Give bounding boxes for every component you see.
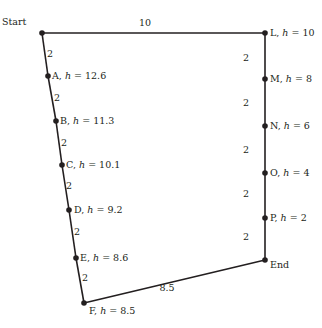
diagram-canvas: 2222228.51022222StartA, h = 12.6B, h = 1… (0, 0, 322, 328)
node-label-end: End (270, 259, 289, 270)
node-L-dot-icon (262, 30, 268, 36)
node-B-dot-icon (53, 118, 59, 124)
edge-length-label: 2 (47, 48, 53, 59)
node-P-dot-icon (262, 215, 268, 221)
node-D-dot-icon (66, 207, 72, 213)
edge-length-label: 2 (74, 226, 80, 237)
node-label-B: B, h = 11.3 (60, 115, 114, 126)
node-N-dot-icon (262, 123, 268, 129)
node-C-dot-icon (59, 162, 65, 168)
node-label-C: C, h = 10.1 (66, 159, 120, 170)
node-F-dot-icon (81, 300, 87, 306)
node-O-dot-icon (262, 170, 268, 176)
edge-length-label: 2 (66, 180, 72, 191)
node-label-F: F, h = 8.5 (89, 305, 135, 316)
edge-length-label: 2 (243, 97, 249, 108)
edge-length-label: 2 (243, 144, 249, 155)
edge-length-label: 2 (243, 188, 249, 199)
node-A-dot-icon (45, 73, 51, 79)
node-start-dot-icon (39, 30, 45, 36)
edge-length-label: 10 (139, 17, 151, 28)
edge-length-label: 2 (243, 231, 249, 242)
node-M-dot-icon (262, 76, 268, 82)
flow-path-diagram: 2222228.51022222StartA, h = 12.6B, h = 1… (0, 0, 322, 328)
node-label-E: E, h = 8.6 (80, 252, 128, 263)
node-label-D: D, h = 9.2 (74, 204, 123, 215)
edge-length-label: 8.5 (159, 282, 174, 293)
node-label-M: M, h = 8 (270, 73, 312, 84)
edge-length-label: 2 (82, 272, 88, 283)
edge-length-label: 2 (54, 92, 60, 103)
label-layer: 2222228.51022222StartA, h = 12.6B, h = 1… (2, 16, 315, 316)
node-end-dot-icon (262, 257, 268, 263)
node-label-P: P, h = 2 (270, 212, 307, 223)
node-label-start: Start (2, 16, 27, 27)
node-label-L: L, h = 10 (270, 27, 315, 38)
edge-length-label: 2 (61, 137, 67, 148)
edge-length-label: 2 (243, 52, 249, 63)
node-E-dot-icon (73, 255, 79, 261)
node-label-N: N, h = 6 (270, 120, 310, 131)
node-label-O: O, h = 4 (270, 167, 309, 178)
node-label-A: A, h = 12.6 (51, 70, 106, 81)
